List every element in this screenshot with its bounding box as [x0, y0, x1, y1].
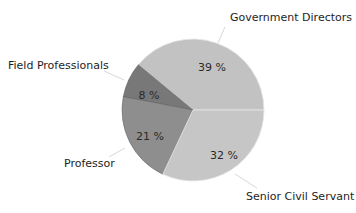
leader-line [109, 148, 125, 157]
percentage-label: 39 % [198, 61, 226, 74]
leader-line [235, 174, 257, 188]
category-label-professor: Professor [64, 157, 115, 170]
pie-slices [122, 39, 264, 181]
category-label-senior-civil-servant: Senior Civil Servant [246, 190, 355, 203]
percentage-label: 8 % [139, 89, 160, 102]
pie-chart: 39 %8 %21 %32 % Government DirectorsFiel… [0, 0, 356, 213]
category-label-field-professionals: Field Professionals [8, 59, 109, 72]
leader-line [218, 27, 225, 43]
percentage-label: 21 % [136, 130, 164, 143]
category-label-government-directors: Government Directors [230, 11, 352, 24]
percentage-label: 32 % [210, 149, 238, 162]
leader-line [104, 71, 124, 80]
